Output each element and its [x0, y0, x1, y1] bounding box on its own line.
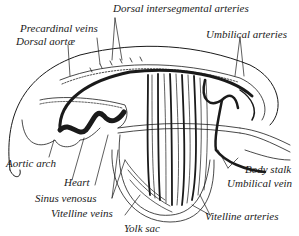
label-umbilical-arteries: Umbilical arteries — [206, 28, 287, 40]
label-vitelline-veins: Vitelline veins — [51, 207, 113, 219]
label-aortic-arch: Aortic arch — [6, 157, 56, 169]
embryo-vascular-diagram: Dorsal intersegmental arteries Precardin… — [0, 0, 299, 236]
label-yolk-sac: Yolk sac — [124, 222, 160, 234]
label-precardinal-veins: Precardinal veins — [20, 22, 98, 34]
label-body-stalk: Body stalk — [245, 163, 291, 175]
label-vitelline-arteries: Vitelline arteries — [205, 210, 278, 222]
label-sinus-venosus: Sinus venosus — [35, 192, 96, 204]
label-umbilical-vein: Umbilical vein — [227, 177, 292, 189]
label-heart: Heart — [64, 176, 90, 188]
label-dorsal-aortae: Dorsal aortæ — [16, 35, 75, 47]
label-dorsal-intersegmental-arteries: Dorsal intersegmental arteries — [113, 2, 249, 14]
